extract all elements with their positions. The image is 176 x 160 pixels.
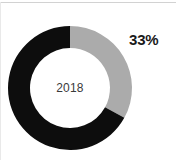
donut-slice-share bbox=[70, 26, 132, 118]
top-divider-rule bbox=[0, 2, 176, 3]
left-divider-rule bbox=[0, 2, 1, 160]
share-percent-data-label: 33% bbox=[129, 31, 158, 48]
donut-svg bbox=[8, 26, 132, 150]
donut-slice-group bbox=[8, 26, 132, 150]
donut-chart-graphic bbox=[8, 26, 132, 150]
donut-chart-figure: 2018 33% bbox=[0, 0, 176, 160]
